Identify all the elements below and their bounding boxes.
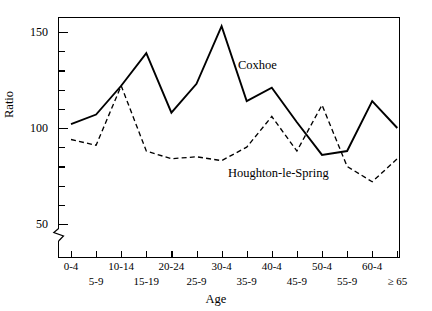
series-label-houghton-le-spring: Houghton-le-Spring: [228, 166, 329, 181]
line-chart: 50100150 0-45-910-1415-1920-2425-930-435…: [0, 0, 432, 311]
series-layer: [0, 0, 432, 311]
x-axis-title: Age: [0, 292, 432, 307]
series-label-coxhoe: Coxhoe: [238, 58, 277, 73]
y-axis-title: Ratio: [2, 91, 17, 118]
series-line-coxhoe: [71, 26, 397, 155]
